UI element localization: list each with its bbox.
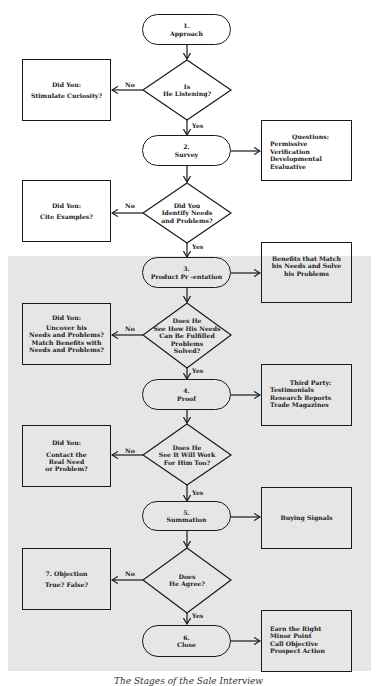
- yes-label-3: Yes: [192, 367, 203, 374]
- box-line: Research Reports: [270, 394, 331, 401]
- left-box-cite-examples: Did You: Cite Examples?: [22, 180, 111, 242]
- decision-4-text: Does He See It Will Work For Him Too?: [148, 437, 226, 473]
- step-approach: 1. Approach: [142, 14, 231, 45]
- yes-label-4: Yes: [192, 489, 203, 496]
- step-label: Approach: [170, 30, 203, 37]
- box-line: Stimulate Curiosity?: [31, 92, 102, 99]
- box-line: True? False?: [45, 581, 88, 588]
- decision-1-text: Is He Listening?: [150, 72, 224, 108]
- box-line: Prospect Action: [270, 647, 325, 654]
- box-line: or Problem?: [45, 465, 87, 472]
- decision-line: Identify Needs: [162, 209, 213, 216]
- step-summation: 5. Summation: [142, 501, 231, 531]
- left-box-objection: 7. Objection True? False?: [22, 548, 111, 610]
- decision-line: See It Will Work: [159, 451, 216, 458]
- yes-label-5: Yes: [192, 612, 203, 619]
- step-number: 3.: [183, 265, 189, 272]
- left-box-uncover-needs: Did You: Uncover his Needs and Problems?…: [22, 303, 111, 365]
- box-line: Uncover his: [46, 324, 87, 331]
- right-box-questions: Questions: Permissive Verification Devel…: [261, 120, 352, 181]
- box-line: his Needs and Solve: [272, 262, 341, 269]
- box-line: Buying Signals: [280, 514, 332, 521]
- decision-line: For Him Too?: [164, 459, 210, 466]
- box-line: Contact the: [46, 451, 87, 458]
- box-line: Testimonials: [270, 386, 314, 393]
- box-heading: Did You:: [52, 81, 81, 88]
- box-line: Needs and Problems?: [29, 331, 104, 338]
- box-line: Benefits that Match: [272, 255, 341, 262]
- yes-label-1: Yes: [192, 122, 203, 129]
- box-heading: Did You:: [52, 202, 81, 209]
- step-product-presentation: 3. Product Pr -entation: [142, 257, 231, 288]
- no-label-1: No: [125, 81, 135, 88]
- step-close: 6. Close: [142, 625, 231, 657]
- step-label: Survey: [175, 151, 198, 158]
- box-line: Earn the Right: [270, 625, 321, 632]
- box-line: Real Need: [49, 458, 84, 465]
- right-box-close-techniques: Earn the Right Minor Point Call Objectiv…: [261, 610, 352, 672]
- decision-line: Did You: [174, 202, 201, 209]
- no-label-5: No: [125, 570, 135, 577]
- step-survey: 2. Survey: [142, 135, 231, 166]
- decision-3-text: Does He See How His Needs Can Be Fulfill…: [146, 313, 228, 359]
- decision-line: Can Be Fulfilled: [159, 332, 215, 339]
- box-heading: 7. Objection: [45, 570, 87, 577]
- step-number: 6.: [183, 634, 189, 641]
- decision-line: Does He: [173, 444, 202, 451]
- step-number: 4.: [183, 387, 189, 394]
- box-line: his Problems: [284, 270, 329, 277]
- no-label-4: No: [125, 447, 135, 454]
- box-heading: Did You:: [52, 439, 81, 446]
- step-number: 5.: [183, 509, 189, 516]
- decision-line: See How His Needs: [153, 325, 220, 332]
- box-line: Developmental: [270, 155, 322, 162]
- right-box-third-party: Third Party: Testimonials Research Repor…: [261, 364, 352, 426]
- step-number: 1.: [183, 22, 189, 29]
- right-box-benefits: Benefits that Match his Needs and Solve …: [261, 242, 352, 303]
- decision-line: Problems: [171, 340, 204, 347]
- no-label-3: No: [125, 325, 135, 332]
- box-heading: Did You:: [52, 314, 81, 321]
- box-line: Verification: [270, 148, 310, 155]
- no-label-2: No: [125, 202, 135, 209]
- box-line: Evaluative: [270, 163, 306, 170]
- box-line: Cite Examples?: [40, 213, 93, 220]
- decision-line: He Agree?: [169, 580, 205, 587]
- decision-line: He Listening?: [163, 90, 211, 97]
- box-line: Needs and Problems?: [29, 346, 104, 353]
- box-line: Match Benefits with: [32, 339, 102, 346]
- step-number: 2.: [183, 143, 189, 150]
- decision-5-text: Does He Agree?: [150, 562, 224, 598]
- step-proof: 4. Proof: [142, 379, 231, 410]
- box-heading: Third Party:: [290, 379, 332, 386]
- decision-line: Does He: [173, 317, 202, 324]
- step-label: Proof: [177, 395, 196, 402]
- decision-line: Does: [179, 573, 196, 580]
- box-line: Permissive: [270, 140, 307, 147]
- figure-caption: The Stages of the Sale Interview: [0, 676, 377, 686]
- left-box-stimulate-curiosity: Did You: Stimulate Curiosity?: [22, 59, 111, 121]
- decision-line: and Problems?: [161, 217, 212, 224]
- right-box-buying-signals: Buying Signals: [261, 487, 352, 549]
- box-line: Trade Magazines: [270, 401, 329, 408]
- box-heading: Questions:: [292, 133, 329, 140]
- decision-line: Solved?: [174, 347, 200, 354]
- decision-line: Is: [184, 83, 190, 90]
- yes-label-2: Yes: [192, 243, 203, 250]
- box-line: Call Objective: [270, 640, 318, 647]
- decision-2-text: Did You Identify Needs and Problems?: [150, 195, 224, 231]
- step-label: Product Pr -entation: [151, 273, 222, 280]
- step-label: Close: [177, 641, 196, 648]
- box-line: Minor Point: [270, 632, 312, 639]
- left-box-contact-real-need: Did You: Contact the Real Need or Proble…: [22, 425, 111, 487]
- step-label: Summation: [167, 516, 207, 523]
